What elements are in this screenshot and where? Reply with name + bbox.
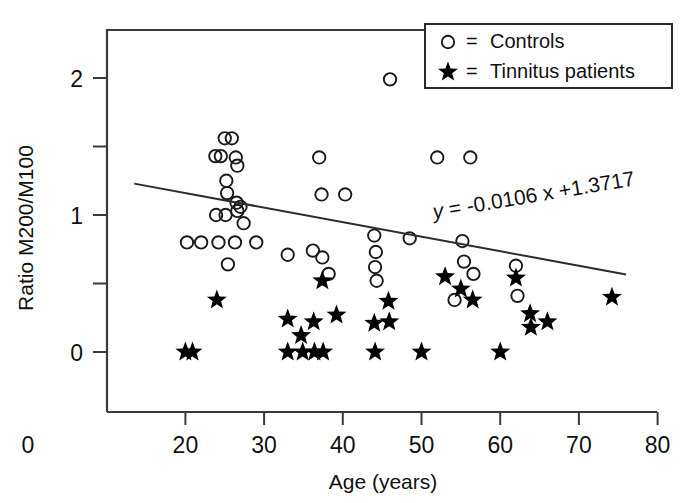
y-tick-label: 0 bbox=[70, 340, 83, 366]
data-point-tinnitus bbox=[378, 291, 398, 310]
data-point-control bbox=[212, 236, 224, 248]
data-point-control bbox=[181, 236, 193, 248]
equation-body: = -0.0106 x +1.3717 bbox=[441, 167, 636, 222]
data-point-control bbox=[511, 290, 523, 302]
x-axis-title: Age (years) bbox=[329, 470, 438, 493]
y-axis-title: Ratio M200/M100 bbox=[14, 145, 37, 311]
x-tick-label: 20 bbox=[173, 432, 199, 458]
data-point-control bbox=[315, 188, 327, 200]
data-point-control bbox=[229, 236, 241, 248]
data-point-control bbox=[195, 236, 207, 248]
x-axis-ticks bbox=[185, 412, 657, 425]
data-point-tinnitus bbox=[412, 342, 432, 361]
scatter-plot: 020304050607080 012 Age (years) Ratio M2… bbox=[0, 0, 697, 503]
data-point-control bbox=[368, 229, 380, 241]
series-tinnitus-points bbox=[175, 266, 622, 360]
x-tick-label: 30 bbox=[251, 432, 277, 458]
y-tick-label: 2 bbox=[70, 66, 83, 92]
data-point-control bbox=[431, 151, 443, 163]
data-point-tinnitus bbox=[463, 289, 483, 308]
legend-label-tinnitus-patients: Tinnitus patients bbox=[490, 60, 635, 82]
data-point-tinnitus bbox=[327, 305, 347, 324]
legend-label-controls: Controls bbox=[490, 30, 564, 52]
data-point-tinnitus bbox=[312, 270, 332, 289]
data-point-control bbox=[369, 261, 381, 273]
data-point-control bbox=[464, 151, 476, 163]
data-point-control bbox=[384, 73, 396, 85]
data-point-control bbox=[467, 268, 479, 280]
y-axis-tick-labels: 012 bbox=[70, 66, 83, 366]
data-point-tinnitus bbox=[537, 311, 557, 330]
legend: =Controls=Tinnitus patients bbox=[425, 24, 672, 88]
x-tick-label: 0 bbox=[22, 432, 35, 458]
y-axis-ticks bbox=[93, 78, 107, 352]
data-point-control bbox=[222, 258, 234, 270]
legend-equals-sign: = bbox=[466, 60, 478, 82]
data-point-control bbox=[282, 249, 294, 261]
data-point-tinnitus bbox=[506, 268, 526, 287]
data-point-tinnitus bbox=[291, 325, 311, 344]
data-point-tinnitus bbox=[364, 313, 384, 332]
data-point-tinnitus bbox=[278, 309, 298, 328]
x-tick-label: 80 bbox=[645, 432, 671, 458]
y-tick-label: 1 bbox=[70, 203, 83, 229]
data-point-tinnitus bbox=[435, 266, 455, 285]
data-point-control bbox=[231, 159, 243, 171]
data-point-tinnitus bbox=[278, 342, 298, 361]
x-tick-label: 40 bbox=[330, 432, 356, 458]
data-point-control bbox=[370, 275, 382, 287]
data-point-control bbox=[219, 209, 231, 221]
data-point-control bbox=[339, 188, 351, 200]
x-tick-label: 60 bbox=[487, 432, 513, 458]
x-tick-label: 70 bbox=[566, 432, 592, 458]
data-point-tinnitus bbox=[490, 342, 510, 361]
data-point-tinnitus bbox=[365, 342, 385, 361]
data-point-control bbox=[458, 255, 470, 267]
data-point-control bbox=[448, 294, 460, 306]
data-point-tinnitus bbox=[304, 311, 324, 330]
series-controls-points bbox=[181, 73, 524, 306]
data-point-tinnitus bbox=[521, 317, 541, 336]
data-point-control bbox=[316, 251, 328, 263]
data-point-control bbox=[250, 236, 262, 248]
regression-equation-text: y = -0.0106 x +1.3717 bbox=[429, 167, 636, 224]
figure-container: 020304050607080 012 Age (years) Ratio M2… bbox=[0, 0, 697, 503]
data-point-control bbox=[370, 246, 382, 258]
data-point-control bbox=[231, 205, 243, 217]
regression-equation-annotation: y = -0.0106 x +1.3717 bbox=[429, 167, 636, 224]
legend-equals-sign: = bbox=[466, 30, 478, 52]
x-tick-label: 50 bbox=[409, 432, 435, 458]
data-point-tinnitus bbox=[379, 311, 399, 330]
data-point-tinnitus bbox=[207, 289, 227, 308]
data-point-tinnitus bbox=[602, 287, 622, 306]
x-axis-tick-labels: 020304050607080 bbox=[22, 432, 671, 458]
data-point-control bbox=[221, 187, 233, 199]
data-point-control bbox=[237, 217, 249, 229]
data-point-control bbox=[313, 151, 325, 163]
data-point-control bbox=[220, 175, 232, 187]
data-point-tinnitus bbox=[313, 342, 333, 361]
